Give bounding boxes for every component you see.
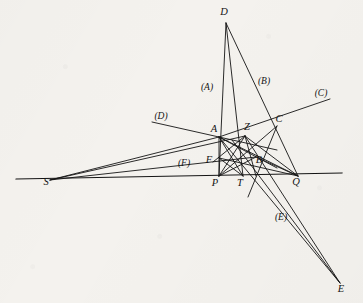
point-label-D: D	[219, 6, 228, 17]
point-label-S: S	[43, 176, 49, 187]
point-labels-group: DAZCFBSPTQE	[43, 6, 344, 294]
seg-S-A	[50, 137, 219, 180]
point-label-Q: Q	[292, 176, 300, 187]
seg-E-B	[219, 137, 340, 283]
ray-C-label: (C)	[315, 88, 328, 99]
seg-D-P	[219, 23, 226, 176]
point-label-T: T	[237, 177, 244, 188]
point-label-A: A	[210, 123, 218, 134]
ray-B-label: (B)	[258, 76, 270, 87]
geometry-diagram: (A)(B)(C)(D)(E)(F) DAZCFBSPTQE	[0, 0, 363, 303]
point-label-E: E	[337, 283, 345, 294]
ray-F-label: (F)	[178, 158, 190, 169]
point-label-Z: Z	[244, 121, 250, 132]
point-label-B: B	[256, 154, 263, 165]
ray-A-label: (A)	[201, 82, 213, 93]
ray-E-label: (E)	[275, 212, 287, 223]
seg-S-Z	[50, 136, 245, 180]
construction-lines-group	[50, 23, 340, 283]
point-label-C: C	[275, 113, 283, 124]
point-label-F: F	[205, 154, 213, 165]
point-label-P: P	[211, 177, 219, 188]
ray-labels-group: (A)(B)(C)(D)(E)(F)	[154, 76, 327, 223]
ray-D-label: (D)	[154, 111, 167, 122]
